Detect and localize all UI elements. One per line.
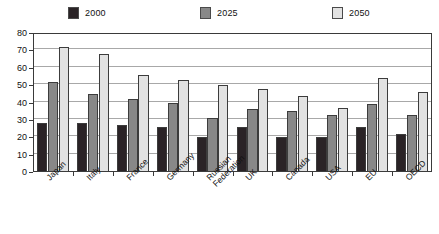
bar xyxy=(367,104,377,172)
y-axis: 80706050403020100 xyxy=(0,33,33,173)
bar xyxy=(88,94,98,172)
bar xyxy=(258,89,268,172)
bar-group xyxy=(73,33,113,172)
bar xyxy=(378,78,388,172)
bar xyxy=(338,108,348,172)
legend-item-2000: 2000 xyxy=(68,6,106,20)
y-tick-label-70: 70 xyxy=(17,46,27,55)
x-axis-labels: JapanItalyFranceGermanyRussian Federatio… xyxy=(0,176,439,234)
legend-swatch-2025 xyxy=(200,7,211,19)
bar xyxy=(37,123,47,172)
bar-group xyxy=(392,33,432,172)
legend-swatch-2000 xyxy=(68,7,79,19)
bar xyxy=(99,54,109,172)
bar-group xyxy=(113,33,153,172)
legend-item-2050: 2050 xyxy=(332,6,370,20)
y-tick-label-80: 80 xyxy=(17,29,27,38)
bar xyxy=(276,137,286,172)
bar-chart: 2000 2025 2050 80706050403020100 JapanIt… xyxy=(0,0,439,234)
bar xyxy=(48,82,58,172)
legend-swatch-2050 xyxy=(332,7,343,19)
bar xyxy=(59,47,69,172)
bar-group xyxy=(193,33,233,172)
y-tick-label-30: 30 xyxy=(17,115,27,124)
legend-item-2025: 2025 xyxy=(200,6,238,20)
y-tick-label-40: 40 xyxy=(17,98,27,107)
bar xyxy=(157,127,167,172)
bar xyxy=(197,137,207,172)
legend-label-2000: 2000 xyxy=(85,9,106,18)
y-tick-label-10: 10 xyxy=(17,150,27,159)
bar xyxy=(356,127,366,172)
chart-legend: 2000 2025 2050 xyxy=(0,6,439,22)
legend-label-2050: 2050 xyxy=(349,9,370,18)
bar-group xyxy=(312,33,352,172)
bar xyxy=(396,134,406,172)
bar xyxy=(77,123,87,172)
bar-group xyxy=(272,33,312,172)
bar xyxy=(247,109,257,172)
legend-label-2025: 2025 xyxy=(217,9,238,18)
y-tick-label-50: 50 xyxy=(17,81,27,90)
y-tick-label-60: 60 xyxy=(17,63,27,72)
y-tick-label-20: 20 xyxy=(17,133,27,142)
bar-group xyxy=(33,33,73,172)
bar xyxy=(316,137,326,172)
bar-group xyxy=(352,33,392,172)
bar xyxy=(117,125,127,172)
bar xyxy=(128,99,138,172)
